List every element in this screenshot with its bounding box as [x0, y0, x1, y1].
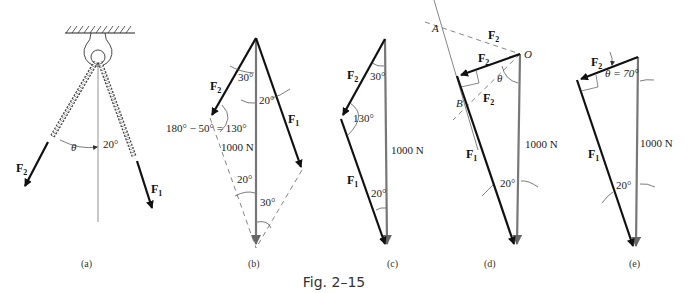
angle-20-label: 20°	[616, 179, 631, 191]
angle-arc	[235, 192, 255, 196]
theta-label: θ	[71, 141, 77, 153]
figure-canvas: θ 20° F2 F1 (a) 30° 20° 180° − 50° = 130…	[0, 0, 690, 293]
f2-dashed-top-label: F2	[488, 28, 499, 44]
theta-angle-arc	[60, 140, 97, 148]
angle-30-label: 30°	[370, 70, 385, 82]
angle-arc	[376, 208, 386, 210]
f2-dashed-bottom-label: F2	[483, 91, 494, 107]
ceiling-support-icon	[65, 26, 135, 66]
force-f1-arrow	[137, 161, 152, 208]
panel-d-caption: (d)	[484, 258, 496, 270]
point-a-label: A	[431, 22, 439, 34]
angle-arc	[640, 80, 654, 81]
panel-b: 30° 20° 180° − 50° = 130° 1000 N 20° 30°…	[166, 38, 302, 270]
f2-solid-label: F2	[478, 51, 489, 67]
f1-label: F1	[347, 173, 358, 189]
f2-label: F2	[16, 161, 27, 177]
force-f2-arrow	[461, 54, 520, 75]
f2-label: F2	[591, 55, 602, 71]
f1-label: F1	[588, 147, 599, 163]
angle-30-bottom-label: 30°	[260, 196, 275, 208]
angle-20-bottom-label: 20°	[237, 173, 252, 185]
theta-label: θ	[497, 72, 503, 84]
parallelogram-right-dashed	[256, 170, 302, 248]
angle-20-label: 20°	[500, 177, 515, 189]
f2-label: F2	[347, 68, 358, 84]
panel-a-caption: (a)	[81, 258, 92, 270]
point-o-label: O	[524, 48, 532, 60]
cable-left	[52, 62, 96, 137]
panel-d: A B O θ 1000 N 20° F2 F2 F2 F1 (d)	[425, 0, 558, 270]
theta-70-label: θ = 70°	[605, 67, 639, 79]
panel-e-caption: (e)	[629, 258, 640, 270]
f2-label: F2	[210, 79, 221, 95]
angle-130-label: 130°	[353, 112, 374, 124]
f1-label: F1	[151, 182, 162, 198]
f1-label: F1	[288, 112, 299, 128]
figure-caption: Fig. 2–15	[303, 274, 365, 290]
panel-c-caption: (c)	[387, 258, 398, 270]
force-f2-arrow	[25, 142, 48, 186]
point-b-label: B	[456, 97, 463, 109]
theta-arc	[502, 66, 518, 83]
panel-a: θ 20° F2 F1 (a)	[16, 26, 162, 270]
panel-c: 30° 130° 1000 N 20° F2 F1 (c)	[341, 39, 424, 270]
angle-20-label: 20°	[103, 138, 118, 150]
f2-dashed-position-a	[425, 22, 520, 54]
angle-arc	[257, 222, 271, 228]
line-of-action-f1	[434, 0, 478, 150]
angle-20-label: 20°	[371, 187, 386, 199]
angle-20-label: 20°	[259, 94, 274, 106]
f1-label: F1	[466, 147, 477, 163]
magnitude-label: 1000 N	[221, 141, 254, 153]
magnitude-label: 1000 N	[525, 138, 558, 150]
panel-b-caption: (b)	[248, 258, 260, 270]
resultant-1000n-arrow	[517, 54, 520, 244]
angle-arc	[372, 63, 384, 66]
panel-e: θ = 70° 1000 N 20° F2 F1 (e)	[577, 52, 673, 270]
magnitude-label: 1000 N	[391, 144, 424, 156]
force-f1-arrow	[577, 80, 633, 246]
angle-130-label: 180° − 50° = 130°	[166, 122, 247, 134]
resultant-1000n-arrow	[636, 57, 638, 246]
theta-arc	[610, 52, 612, 65]
magnitude-label: 1000 N	[640, 137, 673, 149]
angle-30-label: 30°	[238, 71, 253, 83]
